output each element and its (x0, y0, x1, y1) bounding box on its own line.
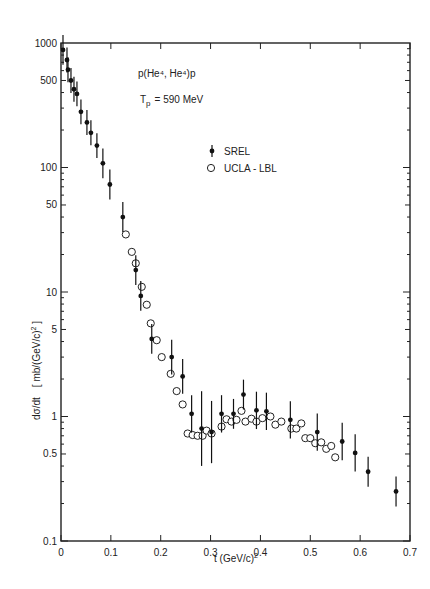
svg-text:0.1: 0.1 (104, 547, 118, 558)
svg-text:5: 5 (51, 324, 57, 335)
cross-section-chart: 0.10.51510501005001000 00.10.20.30.40.50… (0, 0, 430, 589)
svg-text:0.5: 0.5 (43, 448, 57, 459)
svg-text:0.2: 0.2 (154, 547, 168, 558)
svg-text:50: 50 (46, 199, 58, 210)
legend-ucla-label: UCLA - LBL (224, 163, 277, 174)
data-point-ucla (259, 415, 266, 422)
data-point-srel (209, 401, 214, 463)
data-point-srel (107, 170, 112, 200)
data-point-srel (394, 477, 399, 507)
data-point-ucla (173, 387, 180, 394)
data-point-srel (120, 202, 125, 232)
data-point-srel (189, 395, 194, 432)
legend-srel-marker-icon (210, 145, 215, 157)
data-point-srel (353, 434, 358, 471)
svg-text:0: 0 (58, 547, 64, 558)
svg-text:0.5: 0.5 (303, 547, 317, 558)
data-point-srel (340, 423, 345, 460)
data-point-srel (288, 401, 293, 438)
legend-srel-label: SREL (224, 146, 251, 157)
y-axis-ticks: 0.10.51510501005001000 (35, 38, 410, 547)
svg-text:1: 1 (51, 411, 57, 422)
svg-text:0.6: 0.6 (353, 547, 367, 558)
data-point-ucla (318, 439, 325, 446)
data-point-srel (264, 393, 269, 430)
data-point-srel (199, 391, 204, 466)
data-point-ucla (167, 370, 174, 377)
data-point-srel (149, 324, 154, 354)
reaction-annotation: p(He⁴, He⁴)p (138, 68, 196, 79)
svg-text:t (GeV/c)2: t (GeV/c)2 (214, 552, 258, 564)
svg-text:100: 100 (40, 162, 57, 173)
svg-text:1000: 1000 (35, 38, 58, 49)
legend: SREL UCLA - LBL (207, 145, 277, 174)
data-point-ucla (179, 401, 186, 408)
data-point-ucla (328, 442, 335, 449)
data-point-srel (241, 380, 246, 410)
data-point-srel (366, 457, 371, 487)
data-point-ucla (158, 353, 165, 360)
data-point-srel (79, 99, 84, 124)
data-point-srel (100, 148, 105, 178)
data-point-srel (169, 340, 174, 375)
plot-frame (61, 43, 410, 541)
data-point-ucla (332, 454, 339, 461)
data-point-srel (85, 110, 90, 135)
svg-text:Tp= 590 MeV: Tp= 590 MeV (140, 94, 204, 108)
data-point-ucla (267, 413, 274, 420)
svg-text:500: 500 (40, 75, 57, 86)
x-axis-title: t (GeV/c)2 (214, 552, 258, 564)
svg-text:0.1: 0.1 (43, 536, 57, 547)
data-point-ucla (278, 418, 285, 425)
series-srel (61, 35, 399, 506)
legend-ucla-marker-icon (207, 164, 214, 171)
energy-annotation: Tp= 590 MeV (140, 94, 204, 108)
data-point-srel (89, 120, 94, 145)
series-ucla-lbl (122, 231, 339, 461)
data-point-ucla (143, 301, 150, 308)
x-axis-ticks: 00.10.20.30.40.50.60.7 (58, 43, 417, 558)
svg-text:0.7: 0.7 (403, 547, 417, 558)
data-point-ucla (147, 320, 154, 327)
svg-text:dσ/dt[ mb/(GeV/c)2 ]: dσ/dt[ mb/(GeV/c)2 ] (30, 321, 42, 420)
data-point-srel (75, 81, 80, 106)
svg-text:10: 10 (46, 287, 58, 298)
data-point-ucla (298, 420, 305, 427)
data-point-ucla (138, 283, 145, 290)
y-axis-title: dσ/dt[ mb/(GeV/c)2 ] (30, 321, 42, 420)
data-point-ucla (128, 248, 135, 255)
data-point-srel (94, 133, 99, 158)
data-point-ucla (153, 337, 160, 344)
data-point-srel (180, 359, 185, 394)
